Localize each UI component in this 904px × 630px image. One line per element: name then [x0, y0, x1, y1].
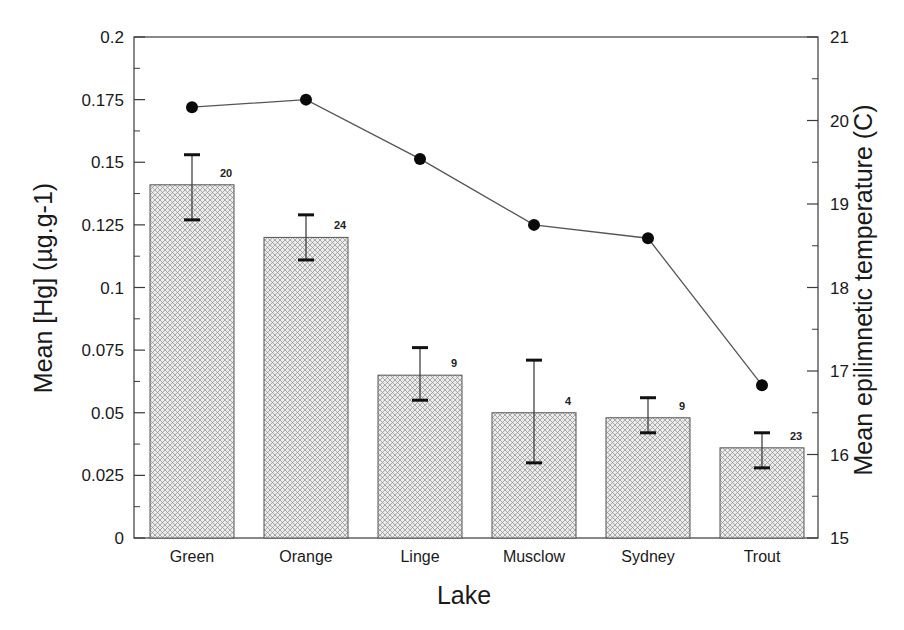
y-tick-label: 0.05: [91, 404, 124, 423]
x-category-label: Musclow: [503, 548, 566, 565]
temperature-marker-trout: [756, 379, 768, 391]
right-y-axis: 15161718192021: [807, 28, 849, 548]
n-label: 24: [334, 219, 347, 231]
plot-border: [134, 37, 818, 538]
temperature-marker-linge: [414, 153, 426, 165]
hg-temperature-chart: 202494923 00.0250.050.0750.10.1250.150.1…: [0, 0, 904, 630]
y-tick-label: 0.2: [100, 28, 124, 47]
x-axis-title: Lake: [437, 581, 491, 609]
x-category-label: Orange: [279, 548, 332, 565]
y2-tick-label: 17: [830, 362, 849, 381]
y2-tick-label: 15: [830, 529, 849, 548]
bar-green: [150, 185, 234, 538]
n-label: 20: [220, 167, 232, 179]
y2-tick-label: 19: [830, 195, 849, 214]
y2-tick-label: 18: [830, 279, 849, 298]
temperature-marker-sydney: [642, 232, 654, 244]
y2-tick-label: 16: [830, 446, 849, 465]
n-label: 23: [790, 430, 802, 442]
bar-sydney: [606, 418, 690, 538]
x-axis: GreenOrangeLingeMusclowSydneyTrout: [170, 548, 781, 565]
y-tick-label: 0.025: [81, 466, 124, 485]
y2-tick-label: 21: [830, 28, 849, 47]
y-tick-label: 0: [115, 529, 124, 548]
y-tick-label: 0.15: [91, 153, 124, 172]
temperature-marker-musclow: [528, 219, 540, 231]
temperature-marker-green: [186, 101, 198, 113]
y-tick-label: 0.125: [81, 216, 124, 235]
y2-axis-title: Mean epilimnetic temperature (C): [849, 105, 877, 476]
x-category-label: Trout: [744, 548, 781, 565]
x-category-label: Sydney: [621, 548, 674, 565]
n-label: 4: [565, 395, 572, 407]
bar-orange: [264, 237, 348, 538]
n-label: 9: [451, 357, 457, 369]
y-tick-label: 0.075: [81, 341, 124, 360]
x-category-label: Linge: [400, 548, 439, 565]
y-tick-label: 0.1: [100, 279, 124, 298]
y-axis-title: Mean [Hg] (µg.g-1): [29, 183, 57, 393]
plot-frame: [134, 37, 818, 538]
bar-series: [150, 185, 804, 538]
x-category-label: Green: [170, 548, 214, 565]
left-y-axis: 00.0250.050.0750.10.1250.150.1750.2: [81, 28, 145, 548]
temperature-marker-orange: [300, 94, 312, 106]
y-tick-label: 0.175: [81, 91, 124, 110]
y2-tick-label: 20: [830, 112, 849, 131]
n-label: 9: [679, 400, 685, 412]
